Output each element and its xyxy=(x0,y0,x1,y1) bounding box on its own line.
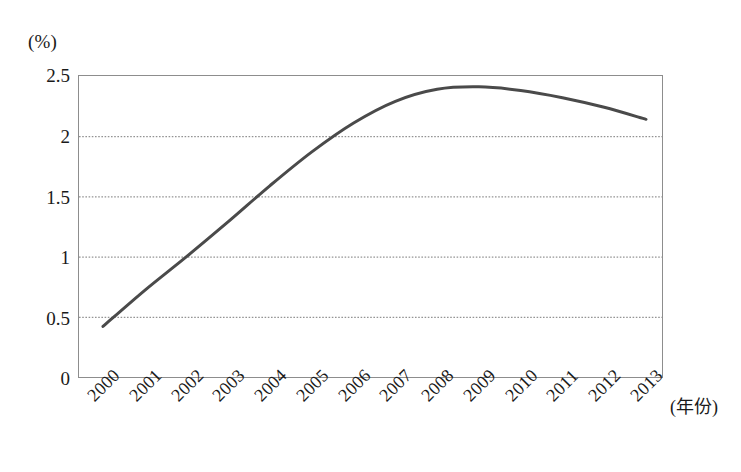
y-tick-label: 0.5 xyxy=(10,309,70,328)
line-chart: (%) 2.5 2 1.5 1 0.5 0 200020012002200320… xyxy=(0,0,741,472)
y-tick-label: 2.5 xyxy=(10,66,70,85)
gridlines xyxy=(79,137,662,318)
y-tick-label: 0 xyxy=(10,369,70,388)
x-axis-title: (年份) xyxy=(670,398,718,416)
y-tick-label: 1 xyxy=(10,248,70,267)
y-tick-label: 2 xyxy=(10,127,70,146)
data-line-series xyxy=(103,87,646,327)
y-tick-label: 1.5 xyxy=(10,188,70,207)
x-axis-tick-labels: 2000200120022003200420052006200720082009… xyxy=(78,378,663,472)
plot-area xyxy=(78,75,663,378)
plot-svg xyxy=(79,76,662,377)
y-axis-tick-labels: 2.5 2 1.5 1 0.5 0 xyxy=(10,0,70,472)
